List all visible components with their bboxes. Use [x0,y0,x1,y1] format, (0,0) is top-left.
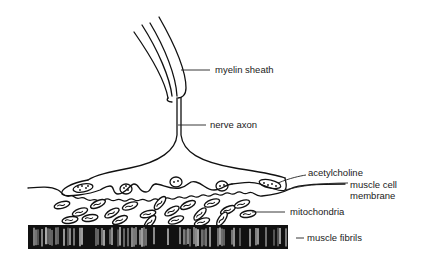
mitochondrion [152,195,167,211]
mitochondrion [203,197,220,209]
mitochondria [53,195,256,230]
mitochondrion [62,215,79,224]
muscle-fibrils [28,225,288,249]
label-muscle-cell-membrane-1: muscle cell [350,179,397,190]
acetylcholine-leader [278,175,306,183]
myelin-sheath [134,17,186,102]
neuromuscular-junction-diagram: myelin sheath nerve axon acetylcholine m… [0,0,433,259]
label-acetylcholine: acetylcholine [308,167,363,178]
nerve-axon [88,98,285,180]
label-myelin-sheath: myelin sheath [215,64,274,75]
mitochondrion [179,199,196,212]
mitochondrion [82,213,99,222]
mitochondrion [240,209,257,218]
label-muscle-cell-membrane-2: membrane [350,190,395,201]
label-nerve-axon: nerve axon [210,119,257,130]
mitochondrion [53,200,70,211]
label-muscle-fibrils: muscle fibrils [307,232,362,243]
mitochondrion [121,200,138,212]
label-mitochondria: mitochondria [290,206,345,217]
mitochondrion [233,198,250,210]
